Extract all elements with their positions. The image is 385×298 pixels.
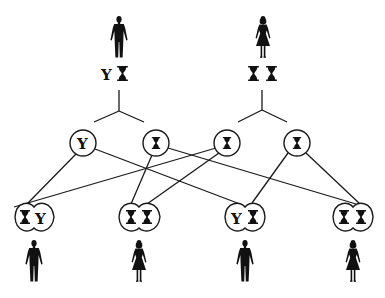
male-figure-icon [110, 16, 127, 58]
y-chromosome: Y [76, 135, 88, 153]
zygote-yx-son-2: Y [225, 203, 265, 231]
zygote-xy-son-1: Y [15, 203, 54, 231]
parent-mother [248, 16, 277, 81]
parent-father: Y [100, 16, 128, 84]
mother-meiosis-branch [238, 90, 287, 122]
female-figure-icon [256, 16, 271, 58]
male-figure-icon [236, 240, 253, 282]
x-chromosome-icon [266, 66, 277, 81]
fertilization-lines [14, 148, 360, 207]
y-chromosome: Y [100, 66, 112, 84]
x-chromosome-icon [248, 66, 259, 81]
gamete-mother-x-1 [214, 130, 240, 156]
father-meiosis-branch [94, 90, 144, 122]
inheritance-diagram: Y Y [0, 0, 385, 298]
gamete-father-x [143, 130, 169, 156]
female-figure-icon [132, 240, 147, 282]
x-chromosome-icon [117, 66, 128, 81]
gamete-father-y: Y [70, 130, 96, 156]
female-figure-icon [346, 240, 361, 282]
zygote-xx-daughter-2 [333, 203, 373, 231]
gamete-mother-x-2 [284, 130, 310, 156]
y-chromosome: Y [34, 210, 46, 228]
y-chromosome: Y [230, 210, 242, 228]
zygote-xx-daughter-1 [119, 203, 160, 231]
male-figure-icon [25, 240, 42, 282]
